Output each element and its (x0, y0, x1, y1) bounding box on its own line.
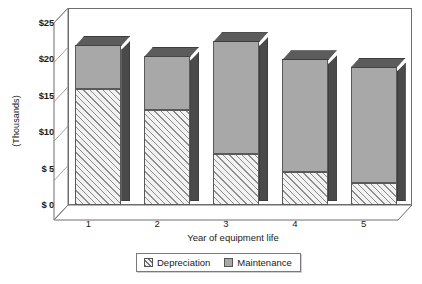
bar-side-face (397, 63, 406, 201)
bar-segment-depreciation[interactable] (351, 183, 397, 205)
solid-swatch-icon (224, 258, 233, 267)
bar-segment-depreciation[interactable] (75, 89, 121, 205)
x-axis-title: Year of equipment life (54, 232, 412, 243)
bar-segment-maintenance[interactable] (213, 41, 259, 154)
bar-top-face (213, 32, 268, 42)
bar-top-face (144, 47, 199, 57)
hatch-swatch-icon (144, 258, 153, 267)
legend-item[interactable]: Maintenance (224, 257, 291, 268)
bar-segment-maintenance[interactable] (351, 67, 397, 183)
x-axis-tick-label: 2 (137, 218, 177, 229)
y-axis-tick-label: $15 (18, 90, 54, 101)
bar-group[interactable] (282, 59, 328, 205)
chart-legend: DepreciationMaintenance (136, 253, 301, 272)
bar-top-face (75, 36, 130, 46)
bar-segment-maintenance[interactable] (75, 45, 121, 89)
bar-segment-maintenance[interactable] (282, 59, 328, 172)
x-axis-tick-label: 5 (344, 218, 384, 229)
legend-label: Maintenance (237, 257, 291, 268)
x-axis-tick-label: 4 (275, 218, 315, 229)
y-axis-tick-label: $25 (18, 17, 54, 28)
stacked-bar-chart: (Thousands) $ 0$ 5$10$15$20$25 12345 Yea… (0, 0, 422, 284)
bar-segment-maintenance[interactable] (144, 56, 190, 111)
y-axis-tick-labels: $ 0$ 5$10$15$20$25 (16, 0, 54, 284)
bar-group[interactable] (213, 41, 259, 205)
bar-group[interactable] (144, 56, 190, 205)
x-axis-tick-label: 1 (68, 218, 108, 229)
bar-side-face (259, 37, 268, 201)
bar-top-face (351, 58, 406, 68)
bar-group[interactable] (75, 45, 121, 205)
legend-label: Depreciation (157, 257, 210, 268)
bar-segment-depreciation[interactable] (213, 154, 259, 205)
bars-layer (54, 8, 412, 220)
legend-item[interactable]: Depreciation (144, 257, 210, 268)
bar-segment-depreciation[interactable] (144, 110, 190, 205)
y-axis-tick-label: $ 5 (18, 163, 54, 174)
bar-side-face (328, 55, 337, 201)
x-axis-tick-label: 3 (206, 218, 246, 229)
y-axis-tick-label: $ 0 (18, 199, 54, 210)
bar-side-face (121, 41, 130, 201)
bar-side-face (190, 52, 199, 201)
bar-group[interactable] (351, 67, 397, 205)
y-axis-tick-label: $10 (18, 126, 54, 137)
bar-segment-depreciation[interactable] (282, 172, 328, 205)
y-axis-tick-label: $20 (18, 53, 54, 64)
bar-top-face (282, 50, 337, 60)
